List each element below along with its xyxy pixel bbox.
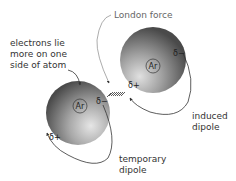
- london-force-hatch: [107, 92, 125, 97]
- temporary-dipole-label-line2: dipole: [119, 165, 146, 176]
- induced-dipole-label-line2: dipole: [192, 122, 219, 133]
- left-ar-symbol: Ar: [76, 102, 85, 111]
- electrons-label-line3: side of atom: [10, 60, 66, 71]
- right-delta-negative: δ−: [173, 49, 185, 58]
- london-force-diagram: Ar Ar δ− δ+ δ+ δ− London force electrons…: [0, 0, 236, 181]
- induced-dipole-label-line1: induced: [192, 111, 228, 122]
- electrons-label-line1: electrons lie: [10, 38, 65, 49]
- london-force-pointer: [97, 15, 111, 83]
- electrons-label-line2: more on one: [10, 49, 67, 60]
- temporary-dipole-label-line1: temporary: [119, 154, 166, 165]
- right-delta-positive: δ+: [128, 81, 140, 90]
- left-delta-positive: δ+: [49, 133, 61, 142]
- right-ar-symbol: Ar: [149, 62, 158, 71]
- left-delta-negative: δ−: [96, 97, 108, 106]
- diagram-canvas: Ar Ar δ− δ+ δ+ δ−: [0, 0, 236, 181]
- london-force-label: London force: [114, 10, 173, 21]
